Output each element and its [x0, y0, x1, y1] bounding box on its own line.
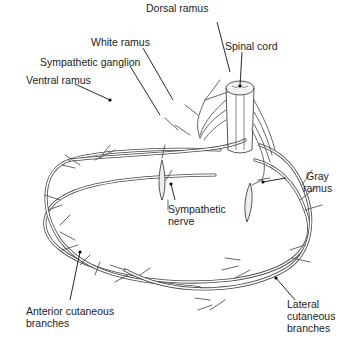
dorsal-ramus [165, 80, 228, 138]
diagram-artwork [0, 0, 356, 348]
label-sympathetic-nerve-line2: nerve [168, 215, 194, 227]
label-gray-ramus-line1: Gray [306, 170, 329, 182]
label-spinal-cord: Spinal cord [225, 40, 278, 52]
label-white-ramus: White ramus [91, 36, 150, 48]
nerve-diagram: Dorsal ramus White ramus Spinal cord Sym… [0, 0, 356, 348]
label-lateral-cutaneous-line3: branches [287, 322, 330, 334]
label-sympathetic-nerve-line1: Sympathetic [168, 203, 226, 215]
label-lateral-cutaneous-line2: cutaneous [287, 310, 335, 322]
label-lateral-cutaneous-line1: Lateral [287, 298, 319, 310]
label-anterior-cutaneous-line2: branches [26, 317, 69, 329]
label-ventral-ramus: Ventral ramus [26, 74, 91, 86]
sympathetic-ganglion-right [245, 178, 270, 222]
label-dorsal-ramus: Dorsal ramus [146, 2, 208, 14]
spinal-cord [200, 81, 275, 180]
label-anterior-cutaneous-line1: Anterior cutaneous [26, 305, 114, 317]
label-gray-ramus-line2: ramus [303, 182, 332, 194]
label-sympathetic-ganglion: Sympathetic ganglion [40, 56, 140, 68]
